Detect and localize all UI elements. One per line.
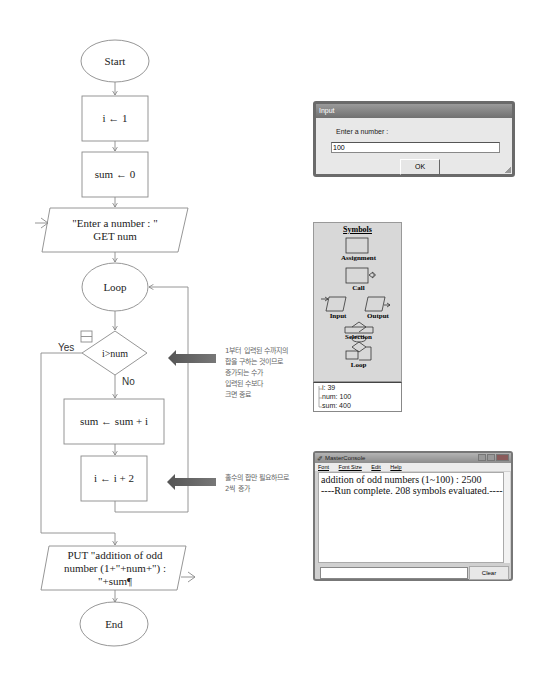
symbol-selection[interactable]: Selection	[314, 333, 403, 341]
output-line: ----Run complete. 208 symbols evaluated.…	[321, 485, 501, 496]
annotation-line: 입력된 수보다	[225, 379, 288, 390]
selection-symbol-icon	[345, 322, 373, 333]
annotation-arrow-1	[168, 350, 216, 366]
no-label: No	[122, 376, 135, 387]
resize-grip-icon[interactable]	[505, 167, 511, 173]
clear-button[interactable]: Clear	[469, 566, 509, 580]
assign-sum-label: sum ← 0	[82, 168, 148, 181]
input-dialog: Input Enter a number : 100 OK	[313, 101, 515, 177]
assign-i-inc-label: i ← i + 2	[81, 472, 147, 485]
console-input[interactable]	[320, 567, 468, 579]
input-line1: "Enter a number : "	[50, 217, 180, 230]
var-i: i: 39	[322, 384, 335, 391]
var-num: num: 100	[322, 393, 351, 400]
minimize-icon[interactable]	[478, 454, 486, 461]
assign-sum-add-label: sum ← sum + i	[64, 415, 164, 428]
number-input[interactable]: 100	[331, 142, 500, 153]
annotation-line: 2씩 증가	[225, 484, 289, 495]
annotation-arrow-2	[167, 474, 216, 490]
annotation-line: 증가되는 수가	[225, 368, 288, 379]
output-line1: PUT "addition of odd	[50, 549, 180, 562]
assign-i-label: i ← 1	[82, 112, 148, 125]
var-sum: sum: 400	[322, 402, 351, 409]
annotation-increment: 홀수의 합만 필요하므로 2씩 증가	[225, 473, 289, 495]
maximize-icon[interactable]	[487, 454, 495, 461]
menu-edit[interactable]: Edit	[371, 464, 380, 470]
symbol-call[interactable]: Call	[314, 284, 403, 292]
symbol-loop[interactable]: Loop	[314, 361, 403, 369]
loop-label: Loop	[82, 281, 148, 294]
input-dialog-prompt: Enter a number :	[336, 128, 388, 135]
annotation-line: 크면 종료	[225, 390, 288, 401]
yes-label: Yes	[58, 342, 74, 353]
assignment-symbol-icon	[346, 238, 368, 253]
symbols-icons	[314, 223, 403, 383]
call-symbol-icon	[346, 268, 368, 283]
menu-help[interactable]: Help	[390, 464, 401, 470]
output-line2: number (1+"+num+") :	[50, 562, 180, 575]
condition-label: i>num	[90, 347, 140, 360]
output-symbol-icon	[365, 297, 385, 311]
output-line: addition of odd numbers (1~100) : 2500	[321, 474, 501, 485]
console-scrollbar[interactable]	[504, 472, 510, 563]
input-dialog-title: Input	[316, 104, 512, 118]
symbols-panel: Symbols Assignment Call Input Output Sel…	[313, 222, 402, 382]
console-menubar: Font Font Size Edit Help	[315, 463, 511, 471]
end-label: End	[80, 618, 148, 631]
variables-tree: i: 39 num: 100 sum: 400	[313, 382, 402, 412]
start-label: Start	[81, 55, 149, 68]
menu-font-size[interactable]: Font Size	[339, 464, 362, 470]
annotation-line: 합을 구하는 것이므로	[225, 357, 288, 368]
menu-font[interactable]: Font	[318, 464, 329, 470]
symbol-output[interactable]: Output	[358, 312, 398, 320]
output-line3: "+sum¶	[50, 575, 180, 588]
annotation-line: 1부터 입력된 수까지의	[225, 346, 288, 357]
input-line2: GET num	[50, 230, 180, 243]
close-icon[interactable]	[496, 454, 509, 461]
symbol-input[interactable]: Input	[318, 312, 358, 320]
annotation-loop-condition: 1부터 입력된 수까지의 합을 구하는 것이므로 증가되는 수가 입력된 수보다…	[225, 346, 288, 401]
console-output[interactable]: addition of odd numbers (1~100) : 2500 -…	[318, 472, 504, 563]
window-controls	[478, 454, 509, 461]
input-symbol-icon	[326, 297, 346, 311]
app-icon: ✐	[317, 454, 323, 464]
console-title: MasterConsole	[325, 455, 365, 461]
console-titlebar: ✐ MasterConsole	[315, 453, 511, 463]
annotation-line: 홀수의 합만 필요하므로	[225, 473, 289, 484]
symbol-assignment[interactable]: Assignment	[314, 254, 403, 262]
ok-button[interactable]: OK	[400, 159, 440, 175]
master-console-window: ✐ MasterConsole Font Font Size Edit Help…	[313, 451, 513, 581]
